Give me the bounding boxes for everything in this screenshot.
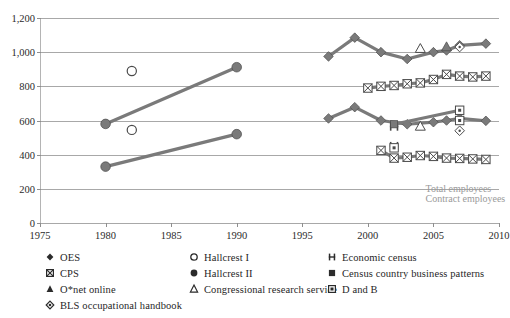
- legend-item-census-country-business-patterns[interactable]: Census country business patterns: [326, 265, 510, 281]
- x-axis-tick-mark: [433, 223, 434, 227]
- data-point-filled-circle: [101, 162, 111, 172]
- data-point-square-dot: [455, 106, 463, 114]
- legend-label: Hallcrest I: [204, 252, 249, 263]
- legend-item-oes[interactable]: OES: [44, 249, 204, 265]
- x-axis-tick-mark: [368, 223, 369, 227]
- data-point-filled-circle: [232, 129, 242, 139]
- legend-marker: [44, 251, 56, 263]
- legend-marker: [44, 283, 56, 295]
- x-axis-tick-label: 1975: [30, 230, 51, 241]
- legend-label: Hallcrest II: [204, 268, 253, 279]
- x-axis-tick-label: 1990: [226, 230, 247, 241]
- legend-label: Census country business patterns: [342, 268, 484, 279]
- data-point-square-x: [455, 72, 463, 80]
- legend-marker: [44, 267, 56, 279]
- legend-column-3: Economic censusCensus country business p…: [326, 249, 510, 297]
- series-hallcrest-i: [127, 66, 136, 134]
- y-axis-tick-label: 1,200: [11, 13, 35, 24]
- data-point-filled-diamond: [429, 47, 439, 57]
- y-axis-tick-label: 200: [19, 183, 35, 194]
- h-bar-icon: [326, 251, 338, 263]
- data-point-square-x: [469, 73, 477, 81]
- data-point-filled-circle: [232, 62, 242, 72]
- data-point-square-x: [442, 154, 450, 162]
- legend-item-hallcrest-i[interactable]: Hallcrest I: [188, 249, 338, 265]
- legend-marker: [326, 251, 338, 263]
- data-point-open-diamond-dot: [455, 126, 465, 136]
- x-axis-tick-label: 1980: [95, 230, 116, 241]
- plot-area: 02004006008001,0001,200 1975198019851990…: [40, 18, 499, 223]
- legend-marker: [326, 267, 338, 279]
- x-axis-tick-label: 2005: [423, 230, 444, 241]
- legend-label: Congressional research service: [204, 284, 337, 295]
- legend-item-o-net-online[interactable]: O*net online: [44, 281, 204, 297]
- series-cps: [364, 70, 490, 92]
- data-point-square-dot: [390, 144, 398, 152]
- x-axis-tick-mark: [237, 223, 238, 227]
- x-axis-tick-label: 2000: [357, 230, 378, 241]
- filled-square-icon: [326, 267, 338, 279]
- data-point-square-x: [482, 72, 490, 80]
- cutoff-title-sliver: [66, 0, 186, 7]
- square-dot-icon: [326, 283, 338, 295]
- data-point-square-x: [377, 82, 385, 90]
- x-axis-tick-mark: [302, 223, 303, 227]
- series-o-net-online: [442, 42, 452, 51]
- data-point-square-x: [403, 153, 411, 161]
- legend-marker: [44, 299, 56, 311]
- filled-circle-icon: [188, 267, 200, 279]
- data-point-square-x: [377, 146, 385, 154]
- legend-item-d-and-b[interactable]: D and B: [326, 281, 510, 297]
- filled-triangle-icon: [44, 283, 56, 295]
- legend-marker: [188, 283, 200, 295]
- legend-item-economic-census[interactable]: Economic census: [326, 249, 510, 265]
- open-triangle-icon: [188, 283, 200, 295]
- data-point-filled-diamond: [481, 39, 491, 49]
- data-point-filled-diamond: [402, 54, 412, 64]
- legend-label: CPS: [60, 268, 79, 279]
- data-point-square-x: [482, 155, 490, 163]
- data-point-square-x: [469, 155, 477, 163]
- data-point-open-circle: [127, 125, 136, 134]
- y-axis-tick-label: 1,000: [11, 47, 35, 58]
- gridline: [40, 223, 499, 224]
- legend-label: D and B: [342, 284, 378, 295]
- data-point-square-x: [429, 75, 437, 83]
- filled-diamond-icon: [44, 251, 56, 263]
- data-point-filled-diamond: [481, 116, 491, 126]
- data-point-filled-diamond: [442, 116, 452, 126]
- legend-item-bls-occupational-handbook[interactable]: BLS occupational handbook: [44, 297, 204, 313]
- plot-annotation-label: Contract employees: [426, 193, 506, 204]
- data-point-filled-diamond: [324, 114, 334, 124]
- legend-marker: [188, 267, 200, 279]
- chart-figure: 02004006008001,0001,200 1975198019851990…: [0, 0, 510, 318]
- open-diamond-dot-icon: [44, 299, 56, 311]
- legend-item-cps[interactable]: CPS: [44, 265, 204, 281]
- legend-marker: [188, 251, 200, 263]
- legend-item-congressional-research-service[interactable]: Congressional research service: [188, 281, 338, 297]
- legend-label: BLS occupational handbook: [60, 300, 182, 311]
- data-point-filled-triangle: [442, 42, 452, 51]
- series-oes: [324, 102, 491, 129]
- x-axis-tick-mark: [106, 223, 107, 227]
- x-axis-tick-mark: [499, 223, 500, 227]
- legend-label: OES: [60, 252, 80, 263]
- chart-legend: OESCPSO*net onlineBLS occupational handb…: [40, 249, 505, 315]
- data-point-square-x: [416, 151, 424, 159]
- legend-item-hallcrest-ii[interactable]: Hallcrest II: [188, 265, 338, 281]
- series-hallcrest-ii: [101, 62, 242, 128]
- x-axis-tick-mark: [40, 223, 41, 227]
- data-point-square-x: [455, 154, 463, 162]
- data-point-square-x: [442, 70, 450, 78]
- x-axis-tick-label: 2010: [489, 230, 510, 241]
- legend-label: Economic census: [342, 252, 417, 263]
- data-point-square-x: [403, 80, 411, 88]
- x-axis-tick-mark: [171, 223, 172, 227]
- data-point-open-triangle: [415, 44, 425, 53]
- series-oes: [324, 33, 491, 64]
- y-axis-tick-label: 0: [30, 218, 35, 229]
- data-point-square-x: [390, 81, 398, 89]
- legend-label: O*net online: [60, 284, 116, 295]
- open-circle-icon: [188, 251, 200, 263]
- legend-column-1: OESCPSO*net onlineBLS occupational handb…: [44, 249, 204, 313]
